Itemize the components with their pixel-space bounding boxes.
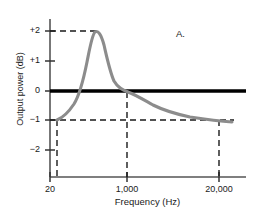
chart-figure: +2 +1 0 −1 −2 20 1,000 20,000 Output pow… — [0, 0, 253, 214]
x-tick-label-20000: 20,000 — [199, 184, 239, 194]
x-tick-label-1000: 1,000 — [107, 184, 147, 194]
response-curve — [57, 32, 232, 122]
y-axis-title: Output power (dB) — [15, 24, 25, 154]
guide-lines — [50, 31, 234, 177]
panel-label: A. — [176, 28, 185, 39]
x-tick-label-20: 20 — [30, 184, 70, 194]
x-axis-title: Frequency (Hz) — [50, 196, 245, 207]
